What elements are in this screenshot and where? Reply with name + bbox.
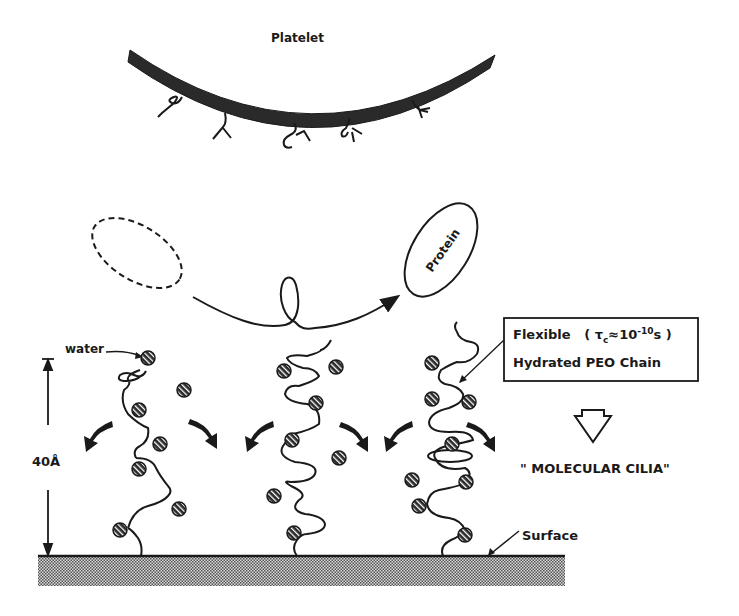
water-bead-icon bbox=[267, 489, 281, 503]
info-box-line1: Flexible ( τc≈10-10s ) bbox=[513, 326, 672, 345]
curved-arrow-right-icon bbox=[339, 422, 368, 452]
water-bead-icon bbox=[132, 403, 146, 417]
water-bead-icon bbox=[445, 437, 459, 451]
water-bead-icon bbox=[425, 392, 439, 406]
platelet-membrane bbox=[128, 50, 495, 128]
water-bead-icon bbox=[132, 462, 146, 476]
platelet bbox=[128, 50, 495, 148]
info-box-line2: Hydrated PEO Chain bbox=[513, 355, 661, 370]
surface-pointer bbox=[488, 531, 519, 556]
curved-arrow-left-icon bbox=[245, 421, 274, 452]
height-label: 40Å bbox=[32, 454, 60, 469]
curved-arrow-left-icon bbox=[384, 421, 413, 452]
water-pointer bbox=[106, 352, 143, 360]
water-bead-icon bbox=[285, 433, 299, 447]
water-bead-icon bbox=[405, 473, 419, 487]
platelet-label: Platelet bbox=[271, 31, 324, 45]
water-bead-icon bbox=[153, 437, 167, 451]
water-bead-icon bbox=[177, 383, 191, 397]
water-bead-icon bbox=[458, 528, 472, 542]
flexible-text: Flexible bbox=[513, 327, 571, 342]
tau-unit: s bbox=[654, 327, 662, 342]
surface-substrate bbox=[38, 556, 565, 586]
water-bead-icon bbox=[412, 499, 426, 513]
hollow-down-arrow-icon bbox=[575, 410, 611, 442]
water-bead-icon bbox=[459, 475, 473, 489]
diagram-canvas: Platelet Protein water 40Å " MOLECULAR C… bbox=[0, 0, 739, 616]
molecular-cilia-label: " MOLECULAR CILIA" bbox=[520, 461, 670, 476]
tau-value: ≈10 bbox=[608, 327, 637, 342]
curved-arrow-left-icon bbox=[84, 421, 113, 452]
protein-previous-position bbox=[80, 204, 193, 303]
water-molecules bbox=[113, 351, 191, 537]
curved-arrow-right-icon bbox=[466, 422, 495, 452]
water-bead-icon bbox=[309, 396, 323, 410]
approach-path-arrow bbox=[193, 278, 397, 329]
tau-symbol: τ bbox=[595, 327, 603, 342]
water-bead-icon bbox=[277, 364, 291, 378]
water-bead-icon bbox=[172, 502, 186, 516]
peo-chain-right bbox=[405, 322, 478, 556]
water-bead-icon bbox=[141, 351, 155, 365]
peo-chain-left bbox=[113, 351, 191, 556]
surface bbox=[38, 556, 565, 586]
water-bead-icon bbox=[425, 356, 439, 370]
water-label: water bbox=[65, 342, 104, 356]
curved-arrow-right-icon bbox=[188, 419, 217, 449]
water-molecules bbox=[267, 360, 346, 540]
peo-chain-middle bbox=[267, 340, 346, 556]
tau-exponent: -10 bbox=[637, 326, 653, 336]
water-bead-icon bbox=[462, 395, 476, 409]
water-bead-icon bbox=[113, 523, 127, 537]
surface-label: Surface bbox=[522, 528, 578, 543]
water-bead-icon bbox=[287, 526, 301, 540]
water-bead-icon bbox=[332, 451, 346, 465]
water-bead-icon bbox=[329, 360, 343, 374]
protein-label: Protein bbox=[423, 226, 463, 275]
